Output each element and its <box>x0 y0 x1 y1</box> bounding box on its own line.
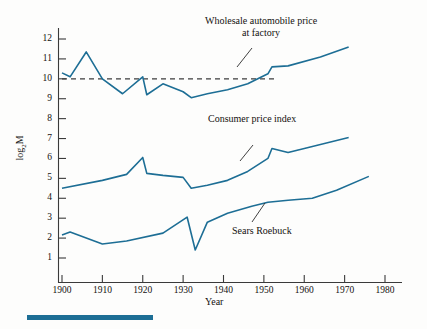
y-tick-label: 7 <box>36 134 52 144</box>
y-tick-label: 6 <box>36 153 52 163</box>
y-tick-label: 5 <box>36 173 52 183</box>
x-tick-label: 1950 <box>247 286 281 296</box>
series-line-sears-roebuck <box>62 176 369 250</box>
y-axis-title-base: log <box>14 148 25 161</box>
x-axis-ticks <box>62 275 385 283</box>
annotation-leader-lines <box>237 48 265 222</box>
chart-canvas <box>0 0 427 329</box>
x-tick-label: 1960 <box>287 286 321 296</box>
series-line-wholesale-automobile-price <box>62 47 349 98</box>
y-tick-label: 4 <box>36 193 52 203</box>
y-tick-label: 10 <box>36 74 52 84</box>
x-axis-title: Year <box>205 296 223 307</box>
y-tick-label: 2 <box>36 233 52 243</box>
axis-lines <box>58 28 402 283</box>
x-tick-label: 1930 <box>166 286 200 296</box>
y-tick-label: 8 <box>36 114 52 124</box>
leader-line-cpi <box>240 145 253 161</box>
y-tick-label: 9 <box>36 94 52 104</box>
x-tick-label: 1970 <box>328 286 362 296</box>
leader-line-wholesale <box>237 48 252 67</box>
annotation-consumer-price-index: Consumer price index <box>208 113 296 125</box>
y-tick-label: 12 <box>36 34 52 44</box>
y-tick-label: 11 <box>36 54 52 64</box>
x-tick-label: 1980 <box>368 286 402 296</box>
annotation-wholesale-automobile-price: Wholesale automobile price at factory <box>205 15 317 38</box>
series-line-consumer-price-index <box>62 138 349 189</box>
y-axis-title: log2M <box>14 128 28 174</box>
annotation-sears-roebuck: Sears Roebuck <box>232 225 292 237</box>
y-axis-title-subscript: 2 <box>20 144 28 148</box>
chart-figure: 123456789101112 190019101920193019401950… <box>0 0 427 329</box>
y-axis-title-tail: M <box>14 135 25 144</box>
annotation-line-1: Wholesale automobile price <box>205 15 317 27</box>
y-axis-ticks <box>59 39 67 258</box>
y-tick-label: 1 <box>36 253 52 263</box>
y-tick-label: 3 <box>36 213 52 223</box>
x-tick-label: 1910 <box>85 286 119 296</box>
x-tick-label: 1920 <box>126 286 160 296</box>
annotation-line-2: at factory <box>205 27 317 39</box>
x-tick-label: 1900 <box>45 286 79 296</box>
footer-rule-bar <box>27 315 153 320</box>
x-tick-label: 1940 <box>207 286 241 296</box>
